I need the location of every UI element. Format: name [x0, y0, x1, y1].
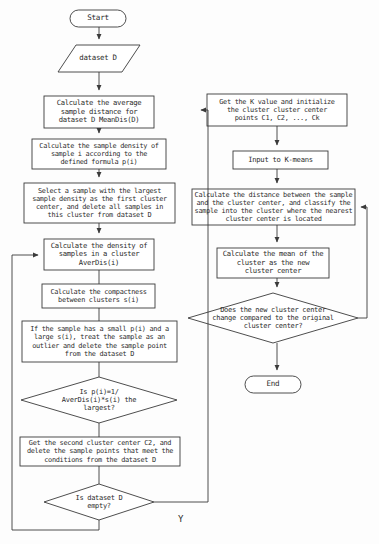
shape-avg-distance	[44, 96, 154, 128]
shape-start	[70, 10, 126, 27]
shape-outlier-removal	[22, 321, 177, 362]
shape-cluster-density	[44, 239, 154, 270]
shape-get-k-value	[207, 94, 347, 126]
shape-first-center	[24, 183, 175, 223]
shape-dataset-empty	[44, 484, 154, 520]
shape-sample-density	[32, 139, 166, 169]
shape-new-center	[217, 248, 329, 278]
shape-assign-clusters	[192, 189, 355, 225]
connector-loop-back-to-assign	[358, 207, 367, 318]
flowchart-shapes-and-connectors	[0, 0, 379, 544]
shape-center-changed	[188, 293, 358, 343]
shape-second-center	[20, 437, 180, 466]
flowchart-canvas: Start dataset D Calculate the average sa…	[0, 0, 379, 544]
shape-largest-decision	[21, 377, 177, 423]
edge-label-dataset-empty-yes: Y	[178, 514, 183, 524]
shape-input-kmeans	[233, 151, 328, 169]
shape-end	[245, 376, 301, 393]
shape-dataset-input	[58, 45, 140, 72]
shape-compactness	[42, 284, 155, 308]
